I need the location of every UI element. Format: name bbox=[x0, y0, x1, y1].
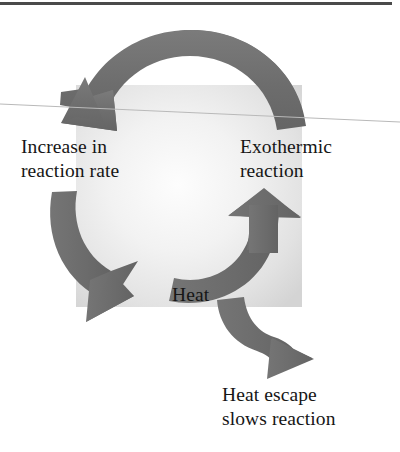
top-page-rule bbox=[0, 2, 392, 5]
label-heat-escape: Heat escape slows reaction bbox=[222, 383, 336, 431]
label-increase-reaction-rate: Increase in reaction rate bbox=[21, 135, 119, 183]
arrow-heat-escape bbox=[217, 297, 314, 379]
figure-root: Increase in reaction rate Exothermic rea… bbox=[0, 0, 400, 452]
label-heat: Heat bbox=[172, 283, 209, 307]
cycle-diagram-svg bbox=[0, 0, 400, 452]
label-exothermic-reaction: Exothermic reaction bbox=[240, 135, 332, 183]
